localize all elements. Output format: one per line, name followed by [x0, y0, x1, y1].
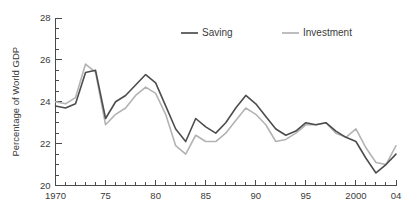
x-tick-label: 95 — [301, 190, 312, 201]
x-tick-label: 85 — [200, 190, 211, 201]
chart-container: 2022242628 19707580859095200004 SavingIn… — [0, 0, 410, 212]
x-tick-label: 04 — [391, 190, 402, 201]
x-tick-label: 75 — [100, 190, 111, 201]
legend-label-investment: Investment — [303, 27, 352, 38]
x-tick-label: 2000 — [345, 190, 366, 201]
line-chart: 2022242628 19707580859095200004 SavingIn… — [0, 0, 410, 212]
series-line-saving — [56, 70, 397, 173]
x-tick-label: 1970 — [45, 190, 66, 201]
series-line-investment — [56, 64, 397, 165]
y-tick-label: 22 — [40, 138, 51, 149]
x-tick-label: 90 — [251, 190, 262, 201]
x-axis-ticks — [56, 180, 397, 186]
y-axis-title: Percentage of World GDP — [10, 47, 21, 157]
chart-legend: SavingInvestment — [181, 27, 352, 38]
y-tick-label: 28 — [40, 12, 51, 23]
series-lines — [56, 64, 397, 173]
legend-label-saving: Saving — [202, 27, 233, 38]
x-axis-group: 19707580859095200004 — [45, 180, 401, 201]
x-axis-tick-labels: 19707580859095200004 — [45, 190, 401, 201]
y-tick-label: 24 — [40, 96, 51, 107]
y-axis-tick-labels: 2022242628 — [40, 12, 51, 191]
y-tick-label: 26 — [40, 54, 51, 65]
x-tick-label: 80 — [150, 190, 161, 201]
